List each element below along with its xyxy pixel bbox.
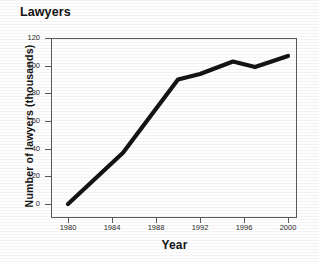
y-tick-20 [45, 176, 51, 177]
y-tick-60 [45, 121, 51, 122]
x-axis-title: Year [51, 238, 298, 252]
y-tick-label-40: 40 [14, 145, 40, 153]
x-tick-label-1984: 1984 [92, 224, 132, 232]
y-tick-label-60: 60 [14, 117, 40, 125]
y-tick-label-80: 80 [14, 89, 40, 97]
y-tick-label-0: 0 [14, 200, 40, 208]
y-tick-0 [45, 204, 51, 205]
y-tick-40 [45, 149, 51, 150]
y-tick-80 [45, 93, 51, 94]
y-tick-label-100: 100 [14, 62, 40, 70]
page-title: Lawyers [20, 5, 71, 19]
y-tick-label-120: 120 [14, 34, 40, 42]
chart-screenshot: Lawyers Number of lawyers (thousands) 12… [0, 0, 319, 262]
x-tick-label-1996: 1996 [224, 224, 264, 232]
y-tick-120 [45, 38, 51, 39]
y-tick-100 [45, 66, 51, 67]
x-tick-label-1980: 1980 [48, 224, 88, 232]
plot-area [51, 38, 297, 218]
x-tick-label-2000: 2000 [268, 224, 308, 232]
x-tick-label-1992: 1992 [180, 224, 220, 232]
x-tick-label-1988: 1988 [136, 224, 176, 232]
y-tick-label-20: 20 [14, 172, 40, 180]
